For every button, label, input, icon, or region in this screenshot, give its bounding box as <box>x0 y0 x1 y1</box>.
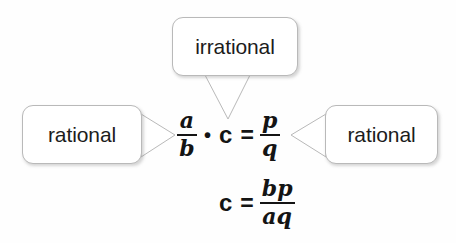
callout-rational-left-label: rational <box>48 124 116 145</box>
tail-rational-right <box>291 114 326 157</box>
multiply-dot: • <box>204 125 211 145</box>
fraction-p-over-q: p q <box>260 109 280 161</box>
callout-irrational[interactable]: irrational <box>172 17 298 76</box>
fraction-bp-over-aq: bp aq <box>260 177 295 229</box>
tail-rational-left <box>141 114 175 157</box>
fraction-a-over-b: a b <box>177 109 197 161</box>
equation-main: a b • c = p q <box>176 104 281 166</box>
fraction-numerator: p <box>260 109 279 133</box>
fraction-denominator: aq <box>260 205 294 229</box>
equation-solved: c = bp aq <box>216 172 296 234</box>
callout-irrational-label: irrational <box>195 36 275 57</box>
callout-rational-left[interactable]: rational <box>22 105 142 164</box>
callout-rational-right-label: rational <box>347 124 415 145</box>
variable-c: c <box>219 123 232 147</box>
equals-sign: = <box>240 124 253 147</box>
fraction-numerator: a <box>178 109 196 133</box>
fraction-denominator: b <box>177 137 196 161</box>
equals-sign: = <box>240 192 253 215</box>
callout-rational-right[interactable]: rational <box>325 105 438 164</box>
fraction-denominator: q <box>260 137 279 161</box>
math-diagram: irrational rational rational a b • c = p… <box>0 0 456 243</box>
variable-c: c <box>219 191 232 215</box>
fraction-numerator: bp <box>260 177 295 201</box>
